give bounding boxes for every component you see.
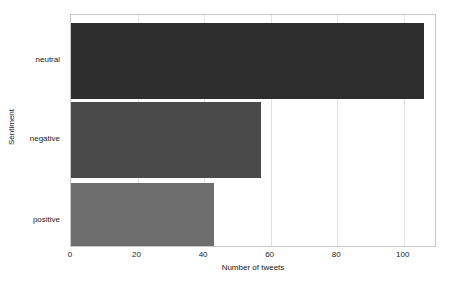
plot-area <box>70 14 436 247</box>
x-tick-label-40: 40 <box>199 250 208 260</box>
y-tick-label-neutral: neutral <box>36 55 60 65</box>
x-tick-label-60: 60 <box>265 250 274 260</box>
bar-neutral <box>71 23 424 99</box>
x-tick-label-80: 80 <box>332 250 341 260</box>
x-axis-tick-labels: 020406080100 <box>70 250 436 264</box>
y-tick-label-negative: negative <box>30 134 60 144</box>
x-tick-label-100: 100 <box>396 250 409 260</box>
x-axis-title: Number of tweets <box>70 263 436 273</box>
y-axis-title: Sentiment <box>7 77 17 177</box>
x-tick-label-20: 20 <box>132 250 141 260</box>
bar-chart: neutralnegativepositive 020406080100 Num… <box>0 0 452 285</box>
bars-layer <box>71 15 435 246</box>
bar-positive <box>71 183 214 247</box>
y-tick-label-positive: positive <box>33 215 60 225</box>
bar-negative <box>71 102 261 178</box>
x-tick-label-0: 0 <box>68 250 72 260</box>
